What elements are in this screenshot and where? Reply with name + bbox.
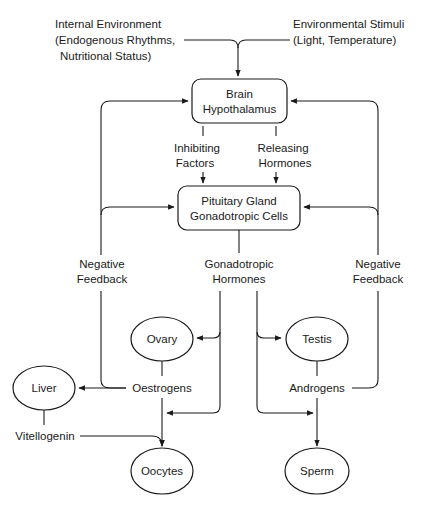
svg-text:Sperm: Sperm [300, 465, 334, 477]
svg-text:Negative: Negative [79, 258, 124, 270]
testis-node: Testis [286, 317, 348, 361]
svg-text:Vitellogenin: Vitellogenin [15, 430, 74, 442]
svg-text:(Endogenous Rhythms,: (Endogenous Rhythms, [55, 34, 175, 46]
reproductive-endocrine-diagram: Internal Environment (Endogenous Rhythms… [0, 0, 421, 509]
svg-text:Liver: Liver [32, 382, 57, 394]
svg-text:Negative: Negative [355, 258, 400, 270]
androgens-edge: Androgens [289, 382, 345, 446]
environmental-stimuli-label: Environmental Stimuli (Light, Temperatur… [293, 18, 404, 46]
svg-text:Gonadotropic: Gonadotropic [204, 258, 273, 270]
svg-text:Hypothalamus: Hypothalamus [203, 103, 277, 115]
sperm-node: Sperm [285, 448, 349, 494]
svg-text:Hormones: Hormones [258, 157, 311, 169]
svg-text:Environmental Stimuli: Environmental Stimuli [293, 18, 404, 30]
svg-text:Gonadotropic Cells: Gonadotropic Cells [190, 210, 288, 222]
pituitary-gland-box: Pituitary Gland Gonadotropic Cells [178, 186, 300, 230]
svg-text:Feedback: Feedback [353, 273, 404, 285]
svg-text:Oocytes: Oocytes [141, 465, 183, 477]
svg-text:(Light, Temperature): (Light, Temperature) [293, 34, 397, 46]
vitellogenin-edge: Vitellogenin [15, 430, 162, 446]
svg-text:Hormones: Hormones [212, 273, 265, 285]
ovary-node: Ovary [131, 317, 193, 361]
inhibiting-factors-edge: Inhibiting Factors [174, 126, 220, 183]
svg-text:Releasing: Releasing [257, 142, 308, 154]
svg-text:Androgens: Androgens [289, 382, 345, 394]
liver-node: Liver [13, 366, 75, 410]
oocytes-node: Oocytes [131, 448, 193, 494]
svg-text:Factors: Factors [176, 157, 215, 169]
svg-text:Inhibiting: Inhibiting [174, 142, 220, 154]
svg-text:Brain: Brain [226, 88, 253, 100]
svg-text:Feedback: Feedback [77, 273, 128, 285]
svg-text:Internal Environment: Internal Environment [55, 18, 162, 30]
input-merge-connector [184, 40, 290, 76]
svg-text:Testis: Testis [302, 333, 332, 345]
internal-environment-label: Internal Environment (Endogenous Rhythms… [55, 18, 175, 62]
svg-text:Ovary: Ovary [147, 333, 178, 345]
svg-text:Pituitary Gland: Pituitary Gland [201, 195, 276, 207]
svg-text:Nutritional Status): Nutritional Status) [60, 50, 152, 62]
svg-text:Oestrogens: Oestrogens [132, 382, 192, 394]
brain-hypothalamus-box: Brain Hypothalamus [192, 79, 287, 123]
releasing-hormones-edge: Releasing Hormones [257, 126, 311, 183]
